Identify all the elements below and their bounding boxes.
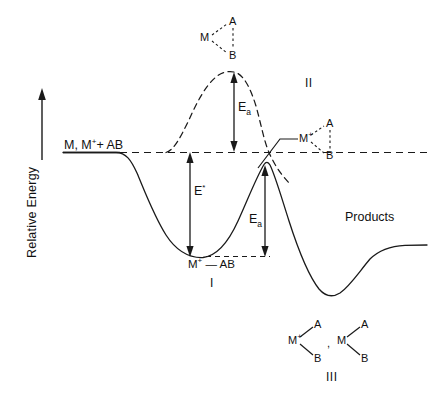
product-cation-atom-b: B bbox=[314, 352, 321, 364]
ea-label-dashed-path: Ea bbox=[238, 100, 251, 114]
ea-subscript-solid: a bbox=[257, 219, 262, 229]
top-complex-atom-m: M bbox=[200, 31, 209, 43]
e-star-superscript: * bbox=[202, 183, 205, 192]
product-cation-charge-superscript: + bbox=[297, 332, 302, 341]
roman-numeral-two: II bbox=[305, 76, 313, 90]
solid-energy-curve bbox=[63, 153, 427, 296]
mid-complex-atom-b: B bbox=[326, 149, 333, 161]
energy-profile-figure bbox=[0, 0, 428, 400]
top-complex-atom-a: A bbox=[229, 15, 236, 27]
e-star-label: E* bbox=[194, 184, 205, 198]
well-species-charge-superscript: + bbox=[198, 256, 203, 265]
ea-arrow-solid-path bbox=[261, 165, 268, 257]
roman-numeral-three: III bbox=[326, 370, 338, 384]
ea-label-solid-path: Ea bbox=[249, 212, 262, 226]
structure-product-neutral bbox=[347, 327, 360, 355]
y-axis-label: Relative Energy bbox=[25, 167, 39, 258]
structure-separator-comma: , bbox=[327, 337, 330, 349]
products-label: Products bbox=[345, 210, 394, 224]
dashed-energy-curve bbox=[166, 72, 291, 185]
mid-complex-atom-m: M+ bbox=[299, 132, 313, 144]
ea-arrow-dashed-path bbox=[230, 72, 237, 152]
product-cation-atom-m: M+ bbox=[288, 334, 302, 346]
y-axis-arrow bbox=[38, 88, 46, 160]
roman-numeral-one: I bbox=[210, 276, 214, 290]
product-neutral-atom-a: A bbox=[361, 318, 368, 330]
ea-subscript-dashed: a bbox=[246, 107, 251, 117]
product-neutral-atom-b: B bbox=[361, 352, 368, 364]
well-species-label: M+ — AB bbox=[188, 258, 235, 270]
mid-complex-charge-superscript: + bbox=[308, 130, 313, 139]
mid-complex-atom-a: A bbox=[326, 117, 333, 129]
product-neutral-atom-m: M bbox=[337, 334, 346, 346]
structure-product-cation bbox=[300, 327, 313, 355]
e-star-arrow bbox=[186, 152, 193, 257]
top-complex-atom-b: B bbox=[229, 49, 236, 61]
reactant-level-label: M, M++ AB bbox=[64, 138, 123, 152]
product-cation-atom-a: A bbox=[314, 318, 321, 330]
